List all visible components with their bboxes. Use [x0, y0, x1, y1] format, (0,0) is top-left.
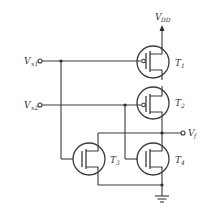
transistor-t4: T 4 [137, 133, 185, 185]
vdd-sub: DD [160, 16, 171, 23]
vdd-supply: V DD [155, 12, 171, 48]
input-x1: V x1 [24, 56, 141, 159]
transistor-t2: T 2 [137, 86, 185, 133]
terminal-icon [181, 131, 185, 135]
circuit-diagram: V DD V x1 V x2 T 1 [0, 0, 204, 222]
input-x2: V x2 [24, 100, 141, 159]
transistor-t3: T 3 [73, 143, 120, 185]
t3-sub: 3 [116, 159, 120, 166]
arrow-up-icon [160, 25, 165, 31]
t2-sub: 2 [180, 102, 185, 109]
transistor-t1: T 1 [137, 46, 185, 80]
t4-sub: 4 [180, 159, 185, 166]
output-sub: f [193, 132, 198, 140]
input-x1-sub: x1 [31, 60, 38, 67]
terminal-icon [38, 59, 42, 63]
input-x2-sub: x2 [31, 104, 38, 111]
terminal-icon [38, 103, 42, 107]
ground-icon [98, 183, 169, 202]
t1-sub: 1 [181, 62, 185, 69]
